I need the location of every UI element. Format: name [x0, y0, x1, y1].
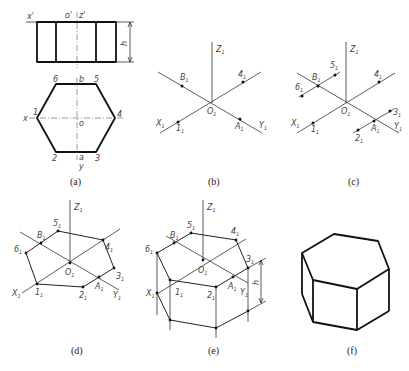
- top-view: 6 b 5 1 x 4 o 2 a 3 y: [22, 75, 124, 171]
- label-3-1: 31: [246, 255, 254, 265]
- label-x1: X1: [155, 119, 165, 129]
- label-z1: Z1: [206, 203, 216, 213]
- panel-c: Z1 B1 51 61 41 O1 X1 11 A1 31 Y1 21 (c): [290, 42, 402, 188]
- label-h: h: [252, 280, 261, 285]
- caption-f: (f): [347, 345, 357, 357]
- label-y: y: [78, 162, 84, 171]
- front-view: x' o' z' h: [26, 11, 134, 68]
- panel-b: Z1 B1 41 O1 X1 11 A1 Y1 (b): [155, 42, 267, 188]
- label-a: a: [79, 153, 84, 162]
- label-z1: Z1: [215, 45, 225, 55]
- panel-f: (f): [302, 234, 389, 357]
- label-4-1: 41: [231, 227, 239, 237]
- label-x1: X1: [290, 119, 300, 129]
- label-y1: Y1: [394, 122, 402, 132]
- label-3: 3: [95, 154, 100, 163]
- label-6: 6: [53, 75, 58, 84]
- label-o: o: [79, 119, 84, 128]
- label-1: 1: [33, 108, 38, 117]
- label-5-1: 51: [330, 61, 338, 71]
- label-2: 2: [52, 154, 57, 163]
- caption-a: (a): [70, 176, 81, 188]
- label-3-1: 31: [116, 272, 124, 282]
- label-1-1: 11: [35, 288, 43, 298]
- label-b1: B1: [170, 231, 179, 241]
- caption-c: (c): [348, 176, 359, 188]
- label-x1: X1: [11, 289, 21, 299]
- caption-d: (d): [71, 345, 83, 357]
- label-4-1: 41: [238, 70, 246, 80]
- label-5-1: 51: [53, 219, 61, 229]
- label-2-1: 21: [79, 291, 87, 301]
- label-y1: Y1: [259, 121, 267, 131]
- label-y1: Y1: [240, 288, 248, 298]
- label-3-1: 31: [393, 108, 401, 118]
- label-5: 5: [94, 75, 99, 84]
- panel-a: x' o' z' h 6 b 5 1 x 4 o 2 a 3 y (a): [22, 11, 134, 188]
- label-o1: O1: [341, 107, 350, 117]
- label-h: h: [120, 41, 129, 46]
- label-b1: B1: [180, 73, 189, 83]
- hexagonal-prism-isometric-figure: x' o' z' h 6 b 5 1 x 4 o 2 a 3 y (a): [0, 0, 409, 371]
- label-y1: Y1: [113, 291, 121, 301]
- label-6-1: 61: [295, 83, 303, 93]
- label-z-prime: z': [78, 11, 85, 20]
- label-5-1: 51: [187, 221, 195, 231]
- label-a1: A1: [234, 122, 244, 132]
- label-a1: A1: [94, 282, 104, 292]
- label-o-prime: o': [65, 11, 72, 20]
- label-o1: O1: [207, 107, 216, 117]
- label-1-1: 11: [176, 124, 184, 134]
- label-b: b: [79, 75, 84, 84]
- label-1-1: 11: [175, 288, 183, 298]
- label-x1: X1: [145, 289, 155, 299]
- label-4-1: 41: [105, 243, 113, 253]
- panel-d: Z1 51 B1 61 41 O1 31 A1 X1 11 21 Y1 (d): [11, 200, 124, 357]
- label-1-1: 11: [311, 125, 319, 135]
- caption-b: (b): [208, 176, 220, 188]
- label-o1: O1: [65, 268, 74, 278]
- label-2-1: 21: [355, 134, 363, 144]
- label-x-prime: x': [26, 12, 34, 21]
- label-o1: O1: [198, 266, 207, 276]
- label-4: 4: [117, 110, 122, 119]
- label-4-1: 41: [374, 70, 382, 80]
- label-6-1: 61: [14, 245, 22, 255]
- caption-e: (e): [208, 345, 219, 357]
- panel-e: Z1 51 B1 61 41 O1 31 A1 Y1 X1 11 21 h (e…: [145, 200, 266, 357]
- label-a1: A1: [370, 124, 380, 134]
- label-b1: B1: [37, 231, 46, 241]
- label-6-1: 61: [145, 245, 153, 255]
- label-2-1: 21: [207, 291, 215, 301]
- label-b1: B1: [312, 73, 321, 83]
- label-a1: A1: [227, 282, 237, 292]
- label-z1: Z1: [73, 203, 83, 213]
- label-x: x: [22, 114, 28, 123]
- label-z1: Z1: [349, 45, 359, 55]
